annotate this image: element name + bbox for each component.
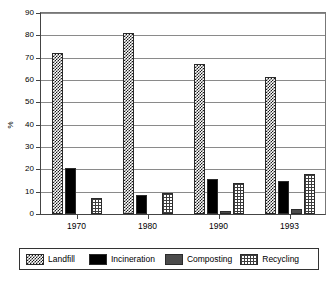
gridline [41, 125, 325, 126]
gridline [41, 58, 325, 59]
bar-landfill-1970 [52, 53, 63, 214]
gridline [41, 35, 325, 36]
y-tick-label: 30 [16, 143, 34, 151]
legend-swatch-composting [165, 254, 183, 265]
bar-recycling-1993 [304, 174, 315, 214]
legend-swatch-landfill [26, 254, 44, 265]
x-tick-label: 1970 [57, 221, 97, 231]
y-tick-label: 50 [16, 98, 34, 106]
gridline [41, 147, 325, 148]
legend: LandfillIncinerationCompostingRecycling [19, 248, 319, 270]
legend-label: Landfill [48, 254, 75, 264]
legend-label: Incineration [111, 254, 155, 264]
gridline [41, 169, 325, 170]
bar-incineration-1990 [207, 179, 218, 214]
legend-swatch-incineration [89, 254, 107, 265]
bar-composting-1990 [220, 211, 231, 214]
bar-incineration-1980 [136, 195, 147, 214]
legend-label: Composting [187, 254, 232, 264]
bar-landfill-1990 [194, 64, 205, 214]
y-tick-label: 40 [16, 121, 34, 129]
bar-recycling-1970 [91, 198, 102, 214]
bar-incineration-1993 [278, 181, 289, 215]
legend-label: Recycling [262, 254, 299, 264]
bar-composting-1993 [291, 209, 302, 214]
plot-area [40, 12, 326, 215]
gridline [41, 102, 325, 103]
gridline [41, 13, 325, 14]
legend-item-composting: Composting [165, 249, 232, 269]
bar-recycling-1980 [162, 193, 173, 214]
y-tick-label: 70 [16, 54, 34, 62]
y-axis-label: % [6, 118, 16, 132]
x-tick-mark [290, 215, 291, 219]
bar-landfill-1980 [123, 33, 134, 214]
y-tick-label: 20 [16, 165, 34, 173]
legend-item-incineration: Incineration [89, 249, 155, 269]
y-tick-label: 90 [16, 9, 34, 17]
legend-item-recycling: Recycling [240, 249, 299, 269]
y-tick-label: 0 [16, 210, 34, 218]
x-tick-mark [148, 215, 149, 219]
x-tick-label: 1980 [128, 221, 168, 231]
bar-recycling-1990 [233, 183, 244, 214]
legend-swatch-recycling [240, 254, 258, 265]
y-tick-label: 60 [16, 76, 34, 84]
x-tick-label: 1993 [270, 221, 310, 231]
bar-chart: % 0102030405060708090 1970198019901993 L… [0, 0, 336, 284]
y-tick-label: 80 [16, 31, 34, 39]
bar-landfill-1993 [265, 77, 276, 214]
x-tick-mark [77, 215, 78, 219]
x-tick-mark [219, 215, 220, 219]
x-tick-label: 1990 [199, 221, 239, 231]
legend-item-landfill: Landfill [26, 249, 75, 269]
y-tick-label: 10 [16, 188, 34, 196]
bar-incineration-1970 [65, 168, 76, 214]
gridline [41, 80, 325, 81]
